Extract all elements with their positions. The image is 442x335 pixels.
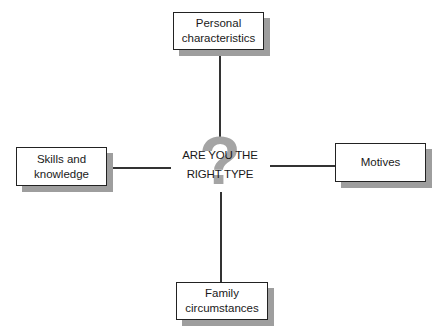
node-label-line1: Personal [182, 16, 256, 31]
node-label-line1: Family [185, 286, 259, 301]
node-family-circumstances: Family circumstances [176, 282, 268, 320]
connector-left [107, 167, 171, 169]
node-motives: Motives [335, 143, 426, 182]
node-label-line1: Motives [361, 155, 401, 170]
center-title: ARE YOU THE RIGHT TYPE [170, 146, 270, 184]
node-skills-and-knowledge: Skills and knowledge [16, 147, 107, 186]
node-personal-characteristics: Personal characteristics [173, 12, 264, 50]
node-label-line1: Skills and [34, 152, 89, 167]
center-title-line2: RIGHT TYPE [170, 165, 270, 184]
node-label-line2: knowledge [34, 167, 89, 182]
center-hub: ? ARE YOU THE RIGHT TYPE [170, 140, 270, 194]
node-label-line2: characteristics [182, 31, 256, 46]
connector-bottom [220, 192, 222, 282]
center-title-line1: ARE YOU THE [170, 146, 270, 165]
node-label-line2: circumstances [185, 301, 259, 316]
connector-right [270, 165, 335, 167]
